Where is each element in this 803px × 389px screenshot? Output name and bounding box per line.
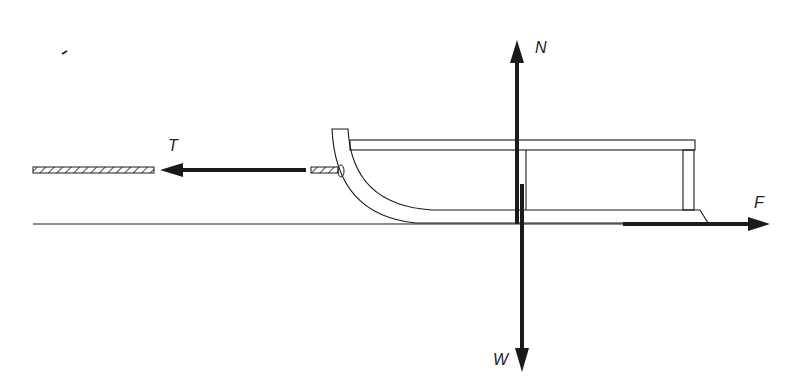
diagram-canvas (0, 0, 803, 389)
sled-rear-post (683, 150, 694, 210)
friction-force-arrow (623, 217, 770, 231)
friction-label: F (754, 195, 764, 211)
free-body-diagram: T N W F (0, 0, 803, 389)
tension-label: T (168, 138, 178, 154)
normal-label: N (535, 40, 547, 56)
stray-mark (62, 51, 67, 54)
sled-top-rail (350, 140, 695, 150)
tension-force-arrow (160, 163, 306, 177)
weight-label: W (493, 352, 508, 368)
